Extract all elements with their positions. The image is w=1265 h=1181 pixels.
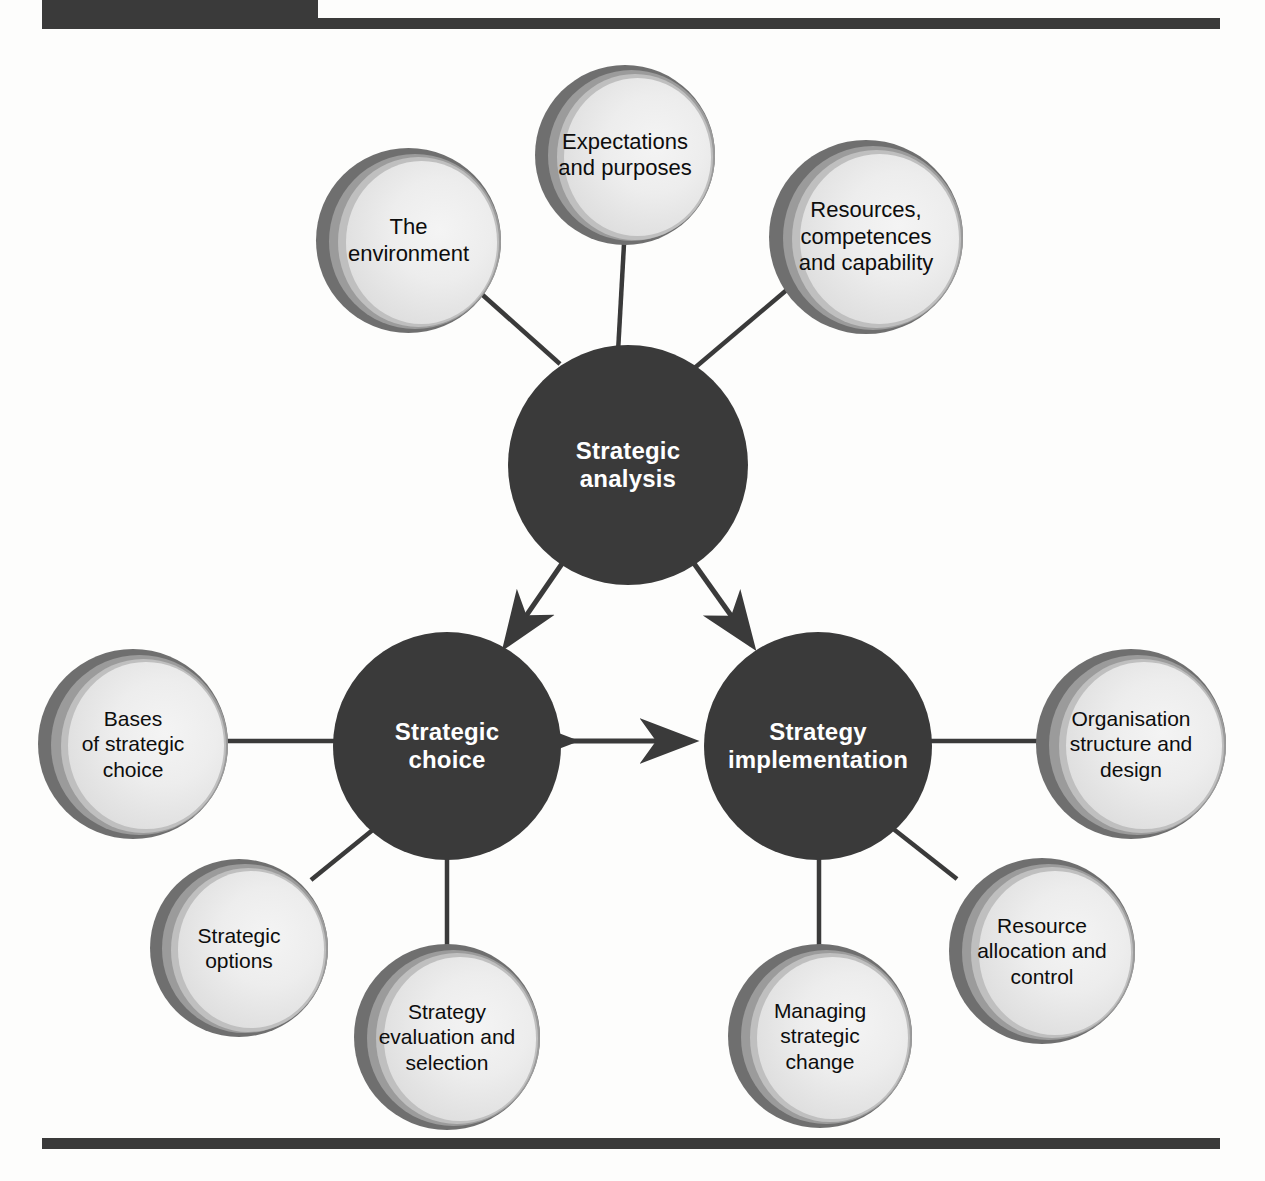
node-resources-competences-capability[interactable]: Resources,competencesand capability: [769, 140, 963, 334]
node-label: Basesof strategicchoice: [76, 706, 191, 782]
node-strategic-options[interactable]: Strategicoptions: [150, 859, 328, 1037]
header-rule: [42, 18, 1220, 29]
hub-label-line2: implementation: [728, 746, 908, 773]
spoke-analysis-expectations: [618, 244, 624, 352]
arrow-analysis-implementation: [688, 555, 752, 645]
spoke-analysis-resources: [691, 288, 789, 371]
node-strategy-evaluation-and-selection[interactable]: Strategyevaluation andselection: [354, 944, 540, 1130]
footer-rule: [42, 1138, 1220, 1149]
node-label: Managingstrategicchange: [768, 998, 872, 1074]
node-bases-of-strategic-choice[interactable]: Basesof strategicchoice: [38, 649, 228, 839]
node-label: Organisationstructure anddesign: [1064, 706, 1199, 782]
hub-strategic-analysis[interactable]: Strategic analysis: [508, 345, 748, 585]
hub-label: Strategy implementation: [720, 718, 916, 775]
hub-strategy-implementation[interactable]: Strategy implementation: [704, 632, 932, 860]
node-label: Strategyevaluation andselection: [373, 999, 522, 1075]
node-label: Theenvironment: [342, 214, 475, 267]
node-label: Resourceallocation andcontrol: [971, 913, 1113, 989]
node-managing-strategic-change[interactable]: Managingstrategicchange: [728, 944, 912, 1128]
node-label: Strategicoptions: [192, 923, 287, 973]
hub-label-line2: analysis: [580, 465, 676, 492]
node-label: Expectationsand purposes: [552, 129, 697, 182]
node-resource-allocation-and-control[interactable]: Resourceallocation andcontrol: [949, 858, 1135, 1044]
hub-label: Strategic choice: [387, 718, 508, 775]
arrow-analysis-choice: [506, 555, 568, 645]
figure-canvas: Theenvironment Expectationsand purposes …: [0, 0, 1265, 1181]
hub-label-line1: Strategic: [395, 718, 500, 745]
hub-label: Strategic analysis: [568, 437, 689, 494]
hub-label-line1: Strategy: [769, 718, 867, 745]
node-organisation-structure-and-design[interactable]: Organisationstructure anddesign: [1036, 649, 1226, 839]
node-label: Resources,competencesand capability: [793, 197, 940, 276]
hub-label-line2: choice: [408, 746, 485, 773]
hub-label-line1: Strategic: [576, 437, 681, 464]
node-expectations-and-purposes[interactable]: Expectationsand purposes: [535, 65, 715, 245]
node-the-environment[interactable]: Theenvironment: [316, 148, 501, 333]
hub-strategic-choice[interactable]: Strategic choice: [333, 632, 561, 860]
